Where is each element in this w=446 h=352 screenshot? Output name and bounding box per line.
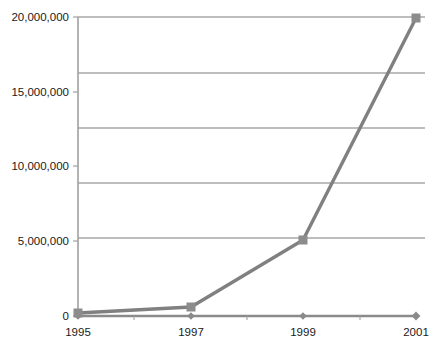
y-tick-label: 15,000,000 [11,86,69,98]
y-tick-label: 5,000,000 [18,235,69,247]
chart-background [0,0,446,352]
line-chart: 20,000,000 15,000,000 10,000,000 5,000,0… [0,0,446,352]
chart-container: 20,000,000 15,000,000 10,000,000 5,000,0… [0,0,446,352]
y-tick-label: 0 [63,310,69,322]
x-tick-label: 1997 [178,326,204,338]
series-1-marker [299,236,308,245]
x-tick-label: 1995 [65,326,91,338]
y-tick-label: 20,000,000 [11,11,69,23]
series-1-marker [187,303,196,312]
x-tick-label: 1999 [290,326,316,338]
series-1-marker [74,309,83,318]
series-1-marker [412,14,421,23]
y-tick-label: 10,000,000 [11,160,69,172]
x-tick-label: 2001 [403,326,429,338]
